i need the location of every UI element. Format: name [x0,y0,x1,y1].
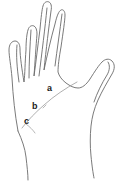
ring-finger-crease [29,30,31,78]
middle-finger-crease [39,8,47,76]
label-c: c [24,117,29,126]
label-b: b [32,102,38,111]
pinky-finger-crease [17,45,19,82]
wrist-left-edge [18,131,28,180]
hand-diagram-screenshot: a b c [0,0,127,183]
index-finger-crease [55,14,62,66]
hand-outline-drawing [0,0,127,183]
label-a: a [47,84,52,93]
